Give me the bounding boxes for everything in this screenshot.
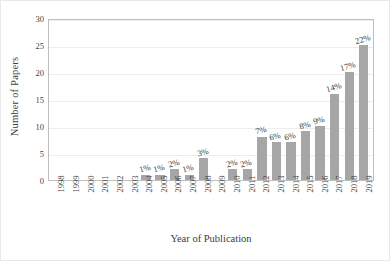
bar-slot: 6% — [269, 20, 284, 180]
x-axis-tick-slot: 2001 — [94, 183, 109, 227]
bar-value-label: 8% — [298, 120, 311, 131]
x-axis-tick-slot: 2012 — [255, 183, 270, 227]
x-axis-tick-slot: 2016 — [314, 183, 329, 227]
bar[interactable] — [345, 72, 354, 180]
x-axis-tick-slot: 2008 — [196, 183, 211, 227]
bar-value-label: 1% — [152, 163, 165, 174]
x-axis-tick-labels: 1998199920002001200220032004200520062007… — [48, 183, 374, 227]
bar-value-label: 2% — [225, 157, 238, 168]
bar[interactable] — [272, 142, 281, 180]
x-axis-tick-slot: 2009 — [211, 183, 226, 227]
bar-slot — [80, 20, 95, 180]
x-axis-tick-slot: 2011 — [240, 183, 255, 227]
x-axis-tick-slot: 2003 — [123, 183, 138, 227]
bar-slot — [51, 20, 66, 180]
bar-value-label: 22% — [354, 33, 371, 45]
x-axis-tick-slot: 2007 — [182, 183, 197, 227]
y-axis-tick-label: 25 — [36, 42, 45, 51]
x-axis-tick-slot: 2017 — [328, 183, 343, 227]
bar-slot: 2% — [226, 20, 241, 180]
bar-slot — [211, 20, 226, 180]
x-axis-tick-slot: 2006 — [167, 183, 182, 227]
bar-slot: 9% — [313, 20, 328, 180]
y-axis-tick-label: 0 — [40, 177, 44, 186]
bar-slot: 1% — [138, 20, 153, 180]
bar[interactable] — [301, 131, 310, 180]
plot-area: 1%1%2%1%3%2%2%7%6%6%8%9%14%17%22% — [48, 19, 374, 181]
y-axis-tick-label: 30 — [36, 15, 45, 24]
bar-value-label: 1% — [181, 163, 194, 174]
bar[interactable] — [359, 45, 368, 180]
bar-slot: 3% — [196, 20, 211, 180]
bar-slot: 22% — [356, 20, 371, 180]
bar-slot: 1% — [182, 20, 197, 180]
bar-value-label: 17% — [339, 60, 356, 72]
y-axis-tick-label: 5 — [40, 150, 44, 159]
x-axis-tick-slot: 2014 — [284, 183, 299, 227]
x-axis-tick-slot: 2002 — [109, 183, 124, 227]
bar-value-label: 14% — [325, 81, 342, 93]
bar-slot — [95, 20, 110, 180]
bar-slot — [66, 20, 81, 180]
x-axis-tick-slot: 1998 — [50, 183, 65, 227]
y-axis-tick-label: 20 — [36, 69, 45, 78]
y-axis-title-text: Number of Papers — [10, 56, 21, 136]
bar-slot: 2% — [167, 20, 182, 180]
x-axis-tick-slot: 2018 — [343, 183, 358, 227]
bar[interactable] — [257, 137, 266, 180]
bar-value-label: 9% — [312, 114, 325, 125]
x-axis-tick-slot: 2000 — [79, 183, 94, 227]
x-axis-tick-slot: 2013 — [270, 183, 285, 227]
bar-slot: 6% — [284, 20, 299, 180]
y-axis-tick-label: 10 — [36, 123, 45, 132]
bar-slot — [109, 20, 124, 180]
x-axis-title: Year of Publication — [48, 233, 374, 244]
bar-slot: 8% — [298, 20, 313, 180]
bar-chart-figure: Number of Papers 051015202530 1%1%2%1%3%… — [0, 0, 390, 261]
bar-slot: 1% — [153, 20, 168, 180]
bar-value-label: 2% — [167, 157, 180, 168]
bar-slot: 17% — [342, 20, 357, 180]
x-axis-tick-slot: 2004 — [138, 183, 153, 227]
y-axis-title: Number of Papers — [3, 1, 27, 191]
bar-value-label: 1% — [138, 163, 151, 174]
x-axis-tick-slot: 2005 — [152, 183, 167, 227]
bar[interactable] — [330, 94, 339, 180]
bar-value-label: 6% — [283, 130, 296, 141]
x-axis-tick-slot: 2019 — [357, 183, 372, 227]
y-axis-tick-label: 15 — [36, 96, 45, 105]
bar-series: 1%1%2%1%3%2%2%7%6%6%8%9%14%17%22% — [49, 20, 373, 180]
x-axis-tick-label: 2019 — [365, 176, 374, 193]
bar[interactable] — [315, 126, 324, 180]
bar-value-label: 2% — [240, 157, 253, 168]
x-axis-tick-slot: 2010 — [226, 183, 241, 227]
bar[interactable] — [286, 142, 295, 180]
bar-slot: 2% — [240, 20, 255, 180]
x-axis-tick-slot: 2015 — [299, 183, 314, 227]
bar-slot: 14% — [327, 20, 342, 180]
bar-slot: 7% — [255, 20, 270, 180]
bar-value-label: 6% — [269, 130, 282, 141]
bar-value-label: 3% — [196, 147, 209, 158]
bar-value-label: 7% — [254, 125, 267, 136]
bar-slot — [124, 20, 139, 180]
y-axis-tick-labels: 051015202530 — [25, 19, 47, 181]
x-axis-tick-slot: 1999 — [65, 183, 80, 227]
